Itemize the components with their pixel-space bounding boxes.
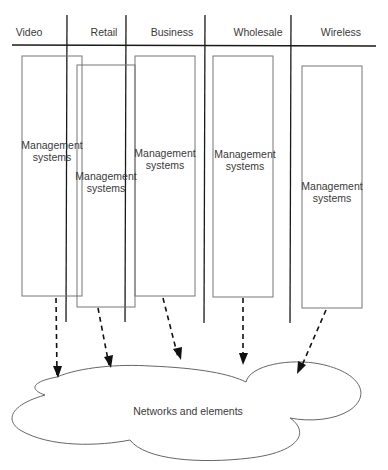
management-label-wholesale-line1: Management [214,148,275,160]
management-box-wholesale [213,56,273,297]
arrowhead-wireless [297,361,306,374]
management-label-wholesale: Management systems [214,148,275,172]
management-label-video-line2: systems [21,151,82,163]
lane-divider-video-retail [66,15,67,322]
management-label-retail-line1: Management [75,170,136,182]
arrow-business-to-network [163,298,178,357]
management-label-video: Management systems [21,139,82,163]
management-label-video-line1: Management [21,139,82,151]
arrowhead-business [173,347,182,360]
arrowhead-wholesale [239,353,248,365]
management-label-business-line2: systems [134,159,195,171]
management-label-business: Management systems [134,147,195,171]
lane-divider-wholesale-wireless [290,15,291,323]
lane-label-business: Business [151,26,194,38]
management-box-business [135,56,195,296]
management-label-wireless-line2: systems [301,192,362,204]
lane-label-wireless: Wireless [321,26,361,38]
management-label-wholesale-line2: systems [214,160,275,172]
management-label-retail-line2: systems [75,182,136,194]
management-systems-diagram: Video Retail Business Wholesale Wireless… [0,0,388,470]
management-label-business-line1: Management [134,147,195,159]
arrow-wireless-to-network [300,310,326,370]
diagram-canvas [0,0,388,470]
lane-label-retail: Retail [91,26,118,38]
lane-divider-business-wholesale [204,15,205,323]
lane-label-wholesale: Wholesale [233,26,282,38]
lane-label-video: Video [16,26,43,38]
management-box-video [22,56,82,296]
management-label-retail: Management systems [75,170,136,194]
management-label-wireless-line1: Management [301,180,362,192]
management-label-wireless: Management systems [301,180,362,204]
networks-cloud-label: Networks and elements [133,405,243,417]
arrowhead-video [53,366,62,378]
arrow-video-to-network [56,298,57,375]
